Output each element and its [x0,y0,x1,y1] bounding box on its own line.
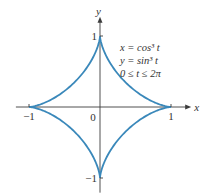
origin-label: 0 [90,111,96,123]
x-tick-label-1: 1 [168,110,174,122]
annotation-line-x: x = cos³ t [119,42,161,53]
y-axis-label: y [95,5,101,17]
annotation-line-y: y = sin³ t [119,55,159,66]
astroid-chart: x y 0 −1 1 1 −1 x = cos³ t y = sin³ t 0 … [0,0,207,195]
x-tick-label-neg1: −1 [23,110,35,122]
y-tick-label-1: 1 [92,30,98,42]
annotation-line-t-range: 0 ≤ t ≤ 2π [120,68,161,79]
x-axis-arrow [185,105,191,110]
y-axis-arrow [98,17,103,23]
y-tick-label-neg1: −1 [85,172,97,184]
x-axis-label: x [193,101,199,113]
